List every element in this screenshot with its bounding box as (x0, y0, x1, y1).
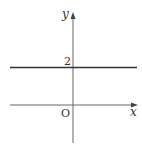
origin-label: O (61, 107, 70, 120)
coordinate-graph: y 2 O x (0, 0, 142, 146)
graph-canvas: y 2 O x (0, 0, 142, 146)
y-axis-label: y (61, 7, 69, 21)
y-intercept-label: 2 (64, 55, 71, 68)
x-axis-label: x (130, 105, 137, 119)
y-axis-arrow-icon (71, 12, 76, 19)
